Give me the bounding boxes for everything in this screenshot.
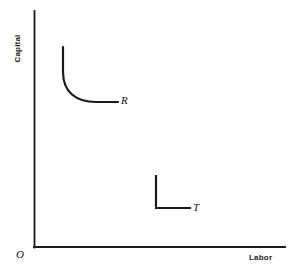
curve-t-label: T	[193, 201, 199, 213]
origin-label: O	[16, 248, 24, 260]
x-axis-label: Labor	[249, 253, 272, 262]
y-axis-label: Capital	[13, 26, 22, 72]
isoquant-diagram: Capital Labor O R T	[0, 0, 289, 275]
curve-r-label: R	[121, 94, 128, 106]
curve-r	[63, 47, 118, 102]
curve-t	[156, 176, 190, 208]
plot-area	[0, 0, 289, 275]
